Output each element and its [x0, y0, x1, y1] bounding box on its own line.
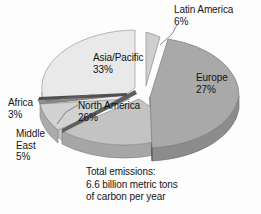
slice-label-north-america: North America 26%	[78, 100, 140, 123]
slice-label-europe: Europe 27%	[196, 72, 228, 95]
slice-label-middle-east-name: Middle	[16, 128, 45, 139]
pie-chart-figure: Latin America 6% Europe 27% Asia/Pacific…	[0, 0, 261, 214]
slice-label-latin-america-pct: 6%	[174, 16, 233, 28]
slice-label-middle-east: Middle East 5%	[16, 128, 45, 163]
slice-label-middle-east-pct: 5%	[16, 151, 45, 163]
slice-label-middle-east-name2: East	[16, 140, 45, 152]
caption-line-2: 6.6 billion metric tons	[86, 179, 178, 192]
slice-label-africa-pct: 3%	[8, 109, 33, 121]
slice-label-africa-name: Africa	[8, 97, 33, 108]
caption-line-1: Total emissions:	[86, 166, 178, 179]
slice-label-north-america-pct: 26%	[78, 112, 140, 124]
slice-label-africa: Africa 3%	[8, 97, 33, 120]
slice-label-europe-pct: 27%	[196, 84, 228, 96]
slice-label-asia-pacific: Asia/Pacific 33%	[93, 52, 144, 75]
slice-label-latin-america: Latin America 6%	[174, 4, 233, 27]
caption-line-3: of carbon per year	[86, 191, 178, 204]
slice-label-asia-pacific-name: Asia/Pacific	[93, 52, 144, 63]
slice-label-europe-name: Europe	[196, 72, 228, 83]
slice-label-latin-america-name: Latin America	[174, 4, 233, 15]
chart-caption: Total emissions: 6.6 billion metric tons…	[86, 166, 178, 204]
slice-label-asia-pacific-pct: 33%	[93, 64, 144, 76]
slice-label-north-america-name: North America	[78, 100, 140, 111]
